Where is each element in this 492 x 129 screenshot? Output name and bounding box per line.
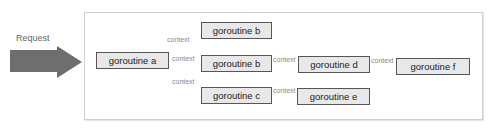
node-goroutine-a: goroutine a <box>96 52 169 69</box>
edge-label-a-c: context <box>172 78 195 85</box>
node-goroutine-e: goroutine e <box>297 88 370 105</box>
node-goroutine-b-middle: goroutine b <box>201 55 272 72</box>
edge-label-c-e: context <box>273 87 296 94</box>
node-goroutine-d: goroutine d <box>298 56 370 73</box>
node-goroutine-b-top: goroutine b <box>201 22 272 39</box>
edge-label-a-b2: context <box>172 55 195 62</box>
node-goroutine-c: goroutine c <box>201 87 272 104</box>
node-goroutine-f: goroutine f <box>396 58 470 75</box>
edge-label-b2-d: context <box>273 56 296 63</box>
edge-label-a-b1: context <box>167 36 190 43</box>
edge-label-d-f: context <box>371 57 394 64</box>
request-arrow-icon <box>10 46 82 78</box>
